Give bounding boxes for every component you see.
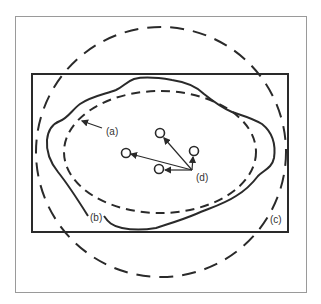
arrow-to-right xyxy=(192,157,193,170)
diagram-canvas: (a) (b) (c) (d) xyxy=(0,0,321,304)
solid-rectangle xyxy=(32,74,288,232)
small-circle-bottom xyxy=(155,165,164,174)
arrow-label-a xyxy=(82,121,102,128)
label-c: (c) xyxy=(270,214,282,225)
label-a: (a) xyxy=(106,126,118,137)
small-circle-left xyxy=(122,149,131,158)
irregular-curve-a xyxy=(47,77,275,229)
dashed-outer-circle-c xyxy=(36,27,286,277)
label-d: (d) xyxy=(196,172,208,183)
label-b: (b) xyxy=(90,212,102,223)
arrow-to-top xyxy=(164,138,192,170)
outer-frame xyxy=(16,17,307,293)
small-circle-top xyxy=(156,129,165,138)
small-circle-right xyxy=(190,147,199,156)
